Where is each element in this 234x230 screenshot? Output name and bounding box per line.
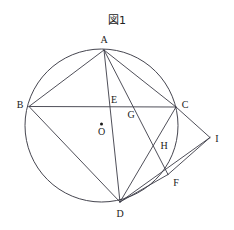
segment-BD <box>29 107 120 203</box>
point-label-C: C <box>182 100 189 110</box>
point-label-D: D <box>116 209 123 219</box>
segment-FI <box>168 138 210 175</box>
point-label-E: E <box>111 95 117 105</box>
segment-DF <box>120 175 168 203</box>
point-label-O: O <box>98 127 105 137</box>
segment-BC <box>29 107 176 108</box>
point-label-G: G <box>127 110 134 120</box>
figure-container: 図1 ABCDFEGHIO <box>0 0 234 230</box>
point-label-A: A <box>100 35 107 45</box>
segments-layer <box>29 50 210 202</box>
point-label-B: B <box>17 100 24 110</box>
point-label-H: H <box>160 141 167 151</box>
segment-AB <box>29 50 104 107</box>
point-label-F: F <box>173 178 179 188</box>
segment-CI <box>176 107 210 138</box>
segment-CD <box>120 107 176 202</box>
segment-AD <box>104 50 120 202</box>
segment-AF <box>104 50 168 175</box>
geometry-diagram <box>0 0 234 230</box>
point-label-I: I <box>215 134 218 144</box>
